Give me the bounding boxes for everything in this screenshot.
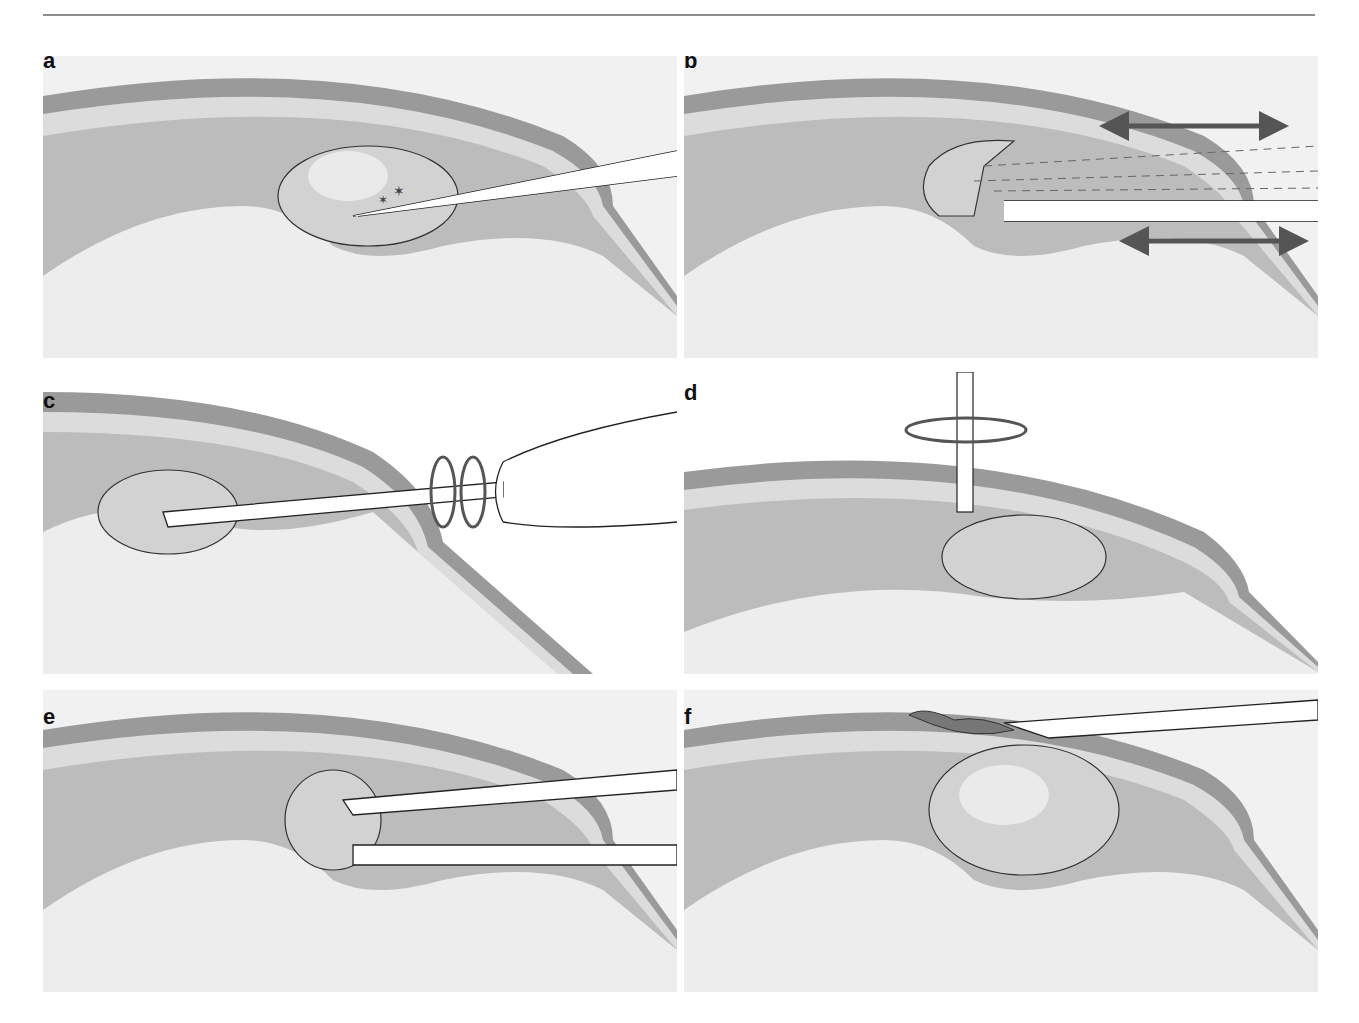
panel-label-e: e [43, 704, 55, 730]
panel-label-c: c [43, 388, 55, 414]
panel-c: c [43, 372, 677, 674]
svg-text:✶: ✶ [378, 193, 388, 207]
panel-a: ✶ ✶ a [43, 56, 677, 358]
panel-label-f: f [684, 704, 691, 730]
panel-e-illustration [43, 690, 677, 992]
panel-a-illustration: ✶ ✶ [43, 56, 677, 358]
panel-c-illustration [43, 372, 677, 674]
panel-label-a: a [43, 56, 55, 74]
panel-f-illustration [684, 690, 1318, 992]
panel-b: b [684, 56, 1318, 358]
panel-e: e [43, 690, 677, 992]
panel-d: d [684, 372, 1318, 674]
panel-f: f [684, 690, 1318, 992]
panel-label-d: d [684, 380, 697, 406]
panel-label-b: b [684, 56, 697, 74]
svg-text:✶: ✶ [393, 183, 405, 199]
panel-d-illustration [684, 372, 1318, 674]
panel-b-illustration [684, 56, 1318, 358]
header-divider [43, 14, 1315, 16]
